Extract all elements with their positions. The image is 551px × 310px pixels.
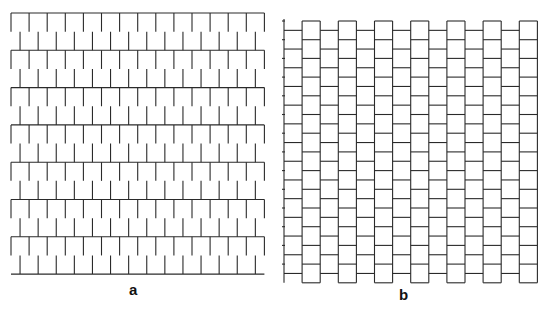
panel-label-a: a: [129, 282, 137, 297]
brick-pattern-figure: [0, 0, 551, 310]
panel-b-vertical-bond: [282, 19, 537, 283]
panel-a-horizontal-bond: [11, 13, 264, 274]
panel-label-b: b: [399, 287, 408, 302]
